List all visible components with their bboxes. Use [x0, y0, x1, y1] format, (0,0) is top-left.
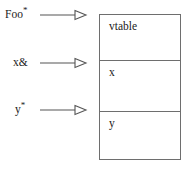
arrow-y-to-y-field: [40, 104, 88, 116]
pointer-label-y: y*: [15, 104, 25, 116]
pointer-label-foo: Foo*: [5, 9, 27, 21]
open-triangle-arrow-icon: [40, 9, 88, 21]
object-cell-y: y: [100, 112, 180, 159]
open-triangle-arrow-icon: [40, 57, 88, 69]
pointer-label-foo-suffix: *: [23, 5, 28, 15]
pointer-label-x: x&: [13, 57, 28, 69]
object-layout-diagram: Foo* x& y* vtable x y: [0, 0, 192, 170]
arrow-x-to-x-field: [40, 57, 88, 69]
object-layout-box: vtable x y: [99, 14, 181, 160]
object-cell-vtable: vtable: [100, 15, 180, 61]
object-cell-x-label: x: [109, 67, 115, 79]
object-cell-vtable-label: vtable: [109, 21, 137, 33]
pointer-label-foo-base: Foo: [5, 8, 23, 20]
object-cell-x: x: [100, 61, 180, 112]
arrow-foo-to-vtable: [40, 9, 88, 21]
open-triangle-arrow-icon: [40, 104, 88, 116]
pointer-label-y-suffix: *: [21, 100, 26, 110]
pointer-label-x-suffix: &: [19, 56, 28, 68]
object-cell-y-label: y: [109, 118, 115, 130]
